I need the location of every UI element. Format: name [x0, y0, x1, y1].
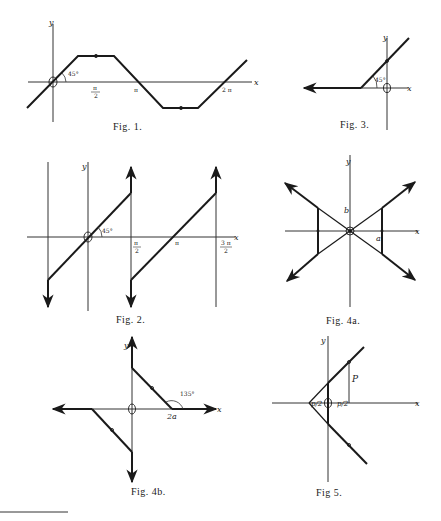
figure-1: 45° y x π 2 π 2 π Fig. 1.: [27, 18, 259, 132]
angle-label: 45°: [68, 70, 79, 77]
right-fraction-label: p/2: [337, 400, 349, 408]
angle-label: 45°: [102, 227, 113, 234]
p-label: P: [351, 374, 359, 384]
tick-2a: 2a: [166, 412, 177, 421]
parabola-branch-upper: [328, 347, 364, 383]
angle-arc: [62, 73, 66, 82]
x-axis-label: x: [234, 233, 239, 242]
point-marker: [381, 230, 384, 233]
x-axis-label: x: [415, 399, 420, 408]
figure-caption: Fig. 3.: [340, 119, 369, 130]
point-marker: [317, 230, 320, 233]
figure-caption: Fig. 2.: [116, 314, 145, 325]
y-axis-label: y: [382, 33, 388, 42]
tick-3pi-over-2-den: 2: [224, 247, 228, 254]
left-fraction-label: p/2: [311, 400, 323, 408]
ray-lower-left: [287, 254, 318, 281]
tick-pi-over-2-num: π: [134, 239, 138, 246]
a-label: a: [376, 234, 381, 243]
figure-caption: Fig. 4b.: [131, 486, 166, 497]
ray-upper-left: [285, 183, 318, 208]
b-label: b: [344, 206, 349, 215]
segment-lower: [92, 409, 132, 452]
x-axis-label: x: [217, 405, 222, 414]
figure-4a: y x b a Fig. 4a.: [285, 155, 420, 326]
tick-pi: π: [134, 86, 138, 93]
figure-caption: Fig. 4a.: [326, 315, 360, 326]
x-axis-label: x: [254, 78, 259, 87]
y-axis-label: y: [345, 157, 351, 166]
figure-5: y x P p/2 p/2 Fig 5.: [272, 336, 420, 498]
y-axis-label: y: [123, 341, 129, 350]
figure-3: 45° y x Fig. 3.: [304, 33, 412, 130]
figure-caption: Fig. 1.: [113, 121, 142, 132]
figure-2: 45° y x π 2 π 3 π 2 Fig. 2.: [27, 162, 239, 325]
tick-pi-over-2-den: 2: [135, 247, 139, 254]
figure-4b: 135° y x 2a Fig. 4b.: [53, 337, 222, 497]
tick-pi-over-2-den: 2: [94, 92, 98, 99]
tick-2pi: 2 π: [222, 86, 232, 93]
angle-label: 45°: [375, 76, 386, 83]
y-axis-label: y: [48, 18, 54, 27]
x-axis-label: x: [407, 84, 412, 93]
figure-caption: Fig 5.: [316, 487, 342, 498]
y-axis-label: y: [81, 162, 87, 171]
ray-upper-right: [382, 182, 415, 208]
segment-upper: [132, 368, 172, 409]
tick-pi-over-2-num: π: [93, 84, 97, 91]
figure-sheet: 45° y x π 2 π 2 π Fig. 1. 45° y x Fig. 3…: [0, 0, 441, 521]
tick-3pi-over-2-num: 3 π: [221, 239, 231, 246]
y-axis-label: y: [320, 336, 326, 345]
ray-lower-right: [382, 254, 415, 280]
x-axis-label: x: [415, 227, 420, 236]
angle-label: 135°: [180, 390, 194, 397]
tick-pi: π: [175, 239, 179, 246]
